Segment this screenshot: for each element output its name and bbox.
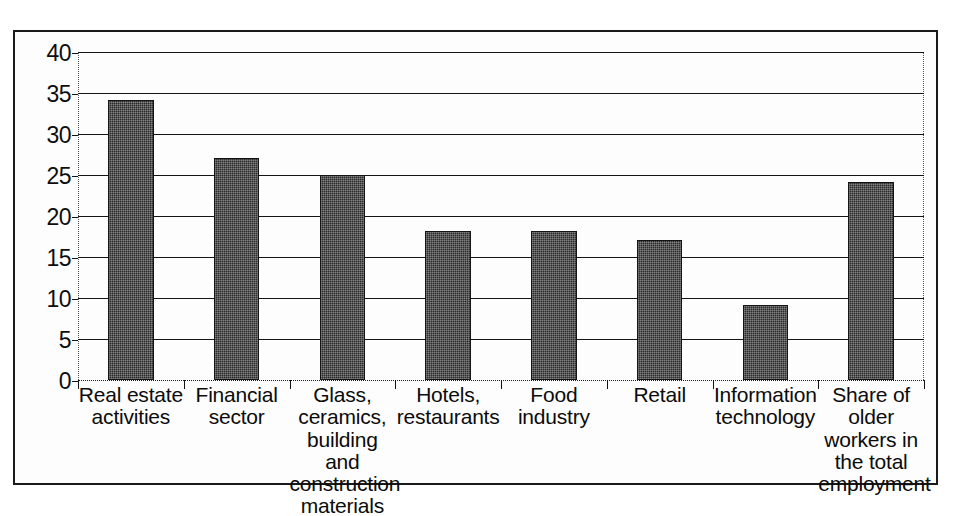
bar-glass-ceramics-building-construction-materials[interactable]	[320, 175, 365, 380]
xlabel-line: building and	[290, 429, 396, 474]
ytick-mark-40	[72, 53, 78, 54]
gridline-25: 25	[78, 175, 924, 176]
xlabel-line: activities	[78, 406, 184, 428]
plot-area: 40 35 30 25 20 15 10 5	[78, 52, 924, 380]
xlabel-line: employment	[818, 473, 924, 495]
ytick-mark-25	[72, 176, 78, 177]
chart-figure: 40 35 30 25 20 15 10 5	[13, 30, 938, 485]
xlabel-line: Financial	[184, 384, 290, 406]
ytick-mark-20	[72, 217, 78, 218]
xlabel-line: sector	[184, 406, 290, 428]
xlabel-line: the total	[818, 451, 924, 473]
xlabel-line: Hotels,	[395, 384, 501, 406]
xlabel-line: restaurants	[395, 406, 501, 428]
xlabel-line: ceramics,	[290, 406, 396, 428]
xtick-mark	[924, 380, 925, 389]
xlabel-glass-ceramics-building-construction-materials: Glass, ceramics, building and constructi…	[290, 384, 396, 516]
xlabel-line: Real estate	[78, 384, 184, 406]
gridline-5: 5	[78, 339, 924, 340]
xlabel-financial-sector: Financial sector	[184, 384, 290, 429]
xlabel-line: construction	[290, 473, 396, 495]
xlabel-hotels-restaurants: Hotels, restaurants	[395, 384, 501, 429]
ytick-mark-15	[72, 258, 78, 259]
xlabel-line: older	[818, 406, 924, 428]
ytick-label-10: 10	[46, 288, 71, 311]
ytick-label-30: 30	[46, 124, 71, 147]
bar-information-technology[interactable]	[743, 305, 788, 380]
gridline-10: 10	[78, 298, 924, 299]
ytick-label-25: 25	[46, 165, 71, 188]
ytick-mark-35	[72, 94, 78, 95]
xlabel-line: Glass,	[290, 384, 396, 406]
bar-real-estate-activities[interactable]	[108, 100, 153, 380]
xlabel-line: Retail	[607, 384, 713, 406]
gridline-30: 30	[78, 134, 924, 135]
gridline-20: 20	[78, 216, 924, 217]
xlabel-line: Share of	[818, 384, 924, 406]
xlabel-food-industry: Food industry	[501, 384, 607, 429]
ytick-mark-30	[72, 135, 78, 136]
xlabel-line: technology	[713, 406, 819, 428]
ytick-label-35: 35	[46, 83, 71, 106]
x-axis-labels: Real estate activities Financial sector …	[78, 384, 924, 482]
gridline-35: 35	[78, 93, 924, 94]
xlabel-retail: Retail	[607, 384, 713, 406]
gridline-15: 15	[78, 257, 924, 258]
xlabel-real-estate-activities: Real estate activities	[78, 384, 184, 429]
gridline-40: 40	[78, 52, 924, 53]
bar-hotels-restaurants[interactable]	[425, 231, 470, 380]
xlabel-line: materials	[290, 495, 396, 516]
bar-share-of-older-workers[interactable]	[848, 182, 893, 380]
xlabel-line: workers in	[818, 429, 924, 451]
bar-food-industry[interactable]	[531, 231, 576, 380]
ytick-mark-10	[72, 299, 78, 300]
ytick-label-15: 15	[46, 247, 71, 270]
ytick-label-5: 5	[59, 329, 71, 352]
xlabel-share-of-older-workers: Share of older workers in the total empl…	[818, 384, 924, 495]
bar-financial-sector[interactable]	[214, 158, 259, 380]
ytick-label-20: 20	[46, 206, 71, 229]
xlabel-line: industry	[501, 406, 607, 428]
ytick-label-0: 0	[59, 370, 71, 393]
xlabel-information-technology: Information technology	[713, 384, 819, 429]
ytick-label-40: 40	[46, 42, 71, 65]
bar-retail[interactable]	[637, 240, 682, 380]
ytick-mark-5	[72, 340, 78, 341]
xlabel-line: Food	[501, 384, 607, 406]
xlabel-line: Information	[713, 384, 819, 406]
